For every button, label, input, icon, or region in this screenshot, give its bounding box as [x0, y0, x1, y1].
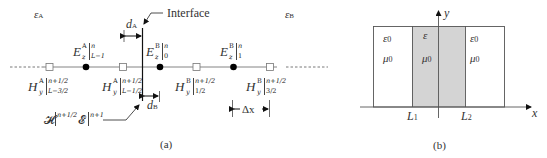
e-node — [230, 64, 237, 71]
left-epsilon-label: ε0 — [383, 33, 391, 44]
x-axis-label: x — [532, 107, 537, 119]
region-a-label: εA — [34, 9, 43, 20]
h-node — [193, 64, 200, 71]
right-mu-label: μ0 — [470, 53, 480, 64]
slab-epsilon-label: ε — [423, 30, 427, 41]
h-field-label: H A y n+1/2 L−1/2 — [102, 77, 152, 97]
h-field-label: H B y n+1/2 3/2 — [246, 77, 296, 97]
slab-mu-label: μ0 — [422, 53, 432, 64]
h-field-label: H A y n+1/2 L−3/2 — [28, 77, 78, 97]
left-mu-label: μ0 — [383, 53, 393, 64]
l2-label: L2 — [461, 110, 472, 122]
interface-label: Interface — [167, 7, 210, 19]
h-node — [120, 64, 127, 71]
d-a-label: dA — [126, 18, 137, 30]
e-node — [157, 64, 164, 71]
interface-field-pointer — [103, 105, 139, 120]
right-epsilon-label: ε0 — [470, 33, 478, 44]
d-a-dimension — [124, 30, 141, 42]
d-b-label: dB — [147, 99, 158, 111]
caption-b: (b) — [433, 139, 446, 151]
l1-label: L1 — [407, 110, 418, 122]
interface-field-label: 𝓗 n+1/2 𝓔 n+1 — [44, 110, 104, 128]
e-field-label: E A z n L−1 — [73, 42, 109, 62]
h-node — [267, 64, 274, 71]
region-b-label: εB — [285, 9, 294, 20]
delta-x-label: Δx — [242, 104, 255, 115]
h-field-label: H B y n+1/2 1/2 — [175, 77, 225, 97]
e-field-label: E B z n 0 — [146, 42, 176, 62]
interface-pointer — [144, 13, 163, 24]
caption-a: (a) — [160, 138, 172, 150]
y-axis-label: y — [444, 7, 449, 19]
h-node — [46, 64, 53, 71]
e-node — [83, 64, 90, 71]
e-field-label: E B z n 1 — [220, 42, 250, 62]
